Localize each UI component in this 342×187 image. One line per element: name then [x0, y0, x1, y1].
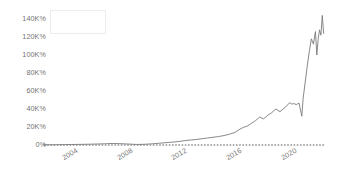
chart-legend — [50, 10, 106, 34]
chart-container: 0%20K%40K%60K%80K%100K%120K%140K% 200420… — [0, 0, 342, 187]
x-axis-tick-label: 2004 — [61, 147, 79, 162]
x-axis-tick-label: 2016 — [225, 147, 243, 162]
x-axis-tick-label: 2012 — [170, 147, 188, 162]
x-axis-tick-label: 2020 — [280, 147, 298, 162]
x-axis-tick-label: 2008 — [116, 147, 134, 162]
legend-label — [51, 11, 105, 14]
